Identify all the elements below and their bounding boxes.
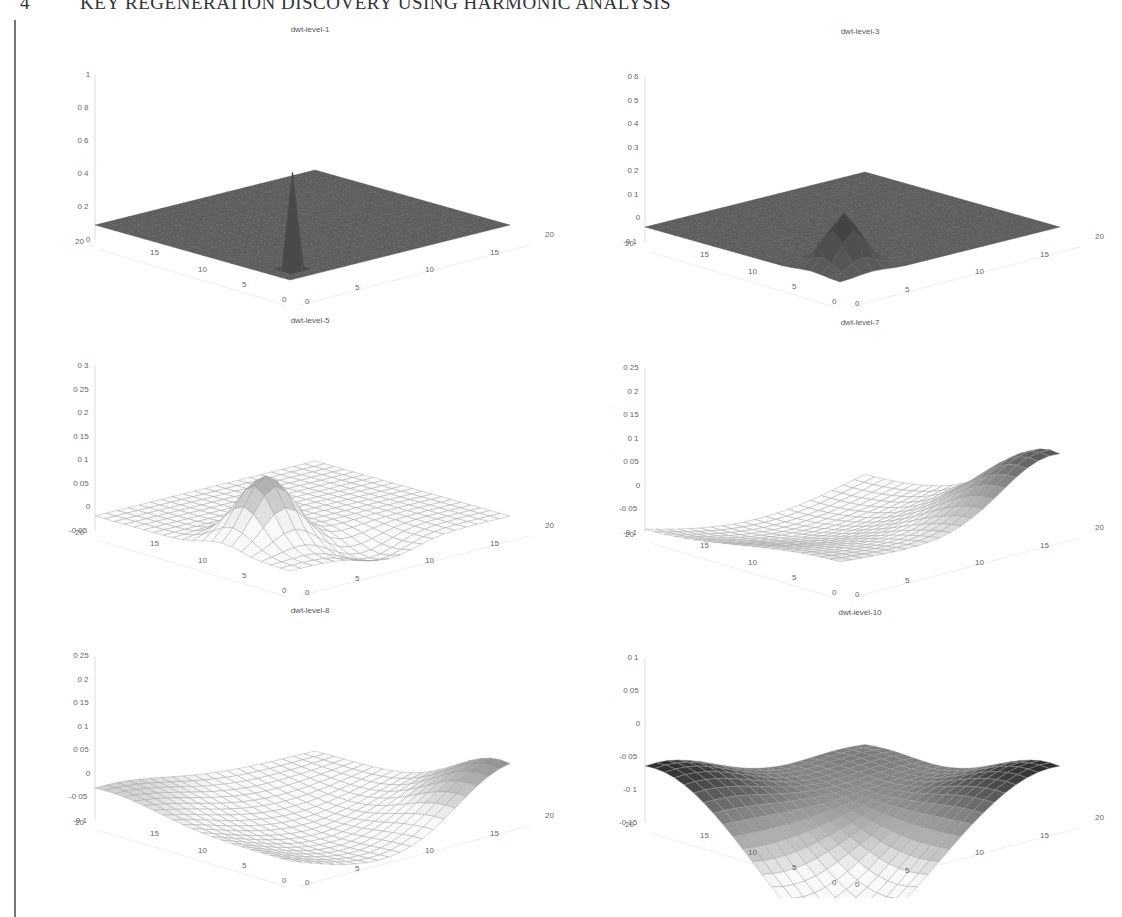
- y-tick-label: 5: [792, 282, 796, 291]
- x-tick-label: 5: [905, 285, 909, 294]
- y-tick-label: 15: [700, 250, 709, 259]
- z-tick-label: 0 15: [73, 698, 89, 707]
- x-tick-label: 15: [1040, 250, 1049, 259]
- z-tick-label: 0 2: [627, 166, 638, 175]
- z-tick-label: 0 3: [627, 143, 638, 152]
- y-tick-label: 20: [625, 239, 634, 248]
- surface-mesh: [20, 316, 560, 606]
- z-tick-label: 0 2: [77, 202, 88, 211]
- x-tick-label: 10: [425, 265, 434, 274]
- y-tick-label: 20: [75, 818, 84, 827]
- surface-mesh: [570, 608, 1110, 898]
- x-tick-label: 5: [355, 574, 359, 583]
- z-tick-label: 0: [86, 502, 90, 511]
- z-tick-label: 0 15: [73, 432, 89, 441]
- x-tick-label: 20: [1095, 523, 1104, 532]
- x-tick-label: 0: [305, 297, 309, 306]
- x-tick-label: 5: [355, 283, 359, 292]
- x-tick-label: 15: [490, 248, 499, 257]
- z-tick-label: 0 25: [73, 385, 89, 394]
- x-tick-label: 10: [425, 846, 434, 855]
- x-tick-label: 0: [305, 588, 309, 597]
- section-number: 4: [20, 0, 80, 14]
- surface-plot-dwt-level-5: dwt-level-5-0 0500 050 10 150 20 250 305…: [20, 316, 560, 606]
- surface-plot-dwt-level-10: dwt-level-10-0 15-0 1-0 0500 050 1051015…: [570, 608, 1110, 898]
- y-tick-label: 10: [198, 556, 207, 565]
- z-tick-label: -0 05: [619, 752, 637, 761]
- z-tick-label: 0 8: [77, 103, 88, 112]
- y-tick-label: 15: [700, 541, 709, 550]
- z-tick-label: 0 2: [77, 675, 88, 684]
- z-tick-label: 0: [636, 213, 640, 222]
- y-tick-label: 10: [198, 265, 207, 274]
- z-tick-label: 0 15: [623, 410, 639, 419]
- x-tick-label: 10: [975, 558, 984, 567]
- surface-plot-dwt-level-8: dwt-level-8-0 1-0 0500 050 10 150 20 250…: [20, 606, 560, 896]
- y-tick-label: 20: [625, 820, 634, 829]
- x-tick-label: 0: [855, 299, 859, 308]
- x-tick-label: 15: [1040, 831, 1049, 840]
- surface-mesh: [20, 606, 560, 896]
- z-tick-label: 0 2: [77, 408, 88, 417]
- y-tick-label: 15: [150, 248, 159, 257]
- surface-mesh: [570, 318, 1110, 608]
- y-tick-label: 0: [832, 588, 836, 597]
- y-tick-label: 5: [242, 571, 246, 580]
- section-header: 4KEY REGENERATION DISCOVERY USING HARMON…: [20, 0, 671, 14]
- y-tick-label: 10: [748, 848, 757, 857]
- x-tick-label: 5: [905, 866, 909, 875]
- x-tick-label: 5: [355, 864, 359, 873]
- y-tick-label: 20: [75, 237, 84, 246]
- y-tick-label: 0: [282, 586, 286, 595]
- z-tick-label: 0 25: [623, 363, 639, 372]
- x-tick-label: 15: [490, 829, 499, 838]
- x-tick-label: 10: [975, 848, 984, 857]
- z-tick-label: 0 6: [77, 136, 88, 145]
- y-tick-label: 5: [242, 280, 246, 289]
- z-tick-label: 0 05: [73, 745, 89, 754]
- z-tick-label: -0 05: [619, 504, 637, 513]
- z-tick-label: 0 1: [627, 190, 638, 199]
- z-tick-label: 0 6: [627, 72, 638, 81]
- y-tick-label: 0: [832, 878, 836, 887]
- surface-plot-dwt-level-3: dwt-level-3-0 100 10 20 30 40 50 6051015…: [570, 27, 1110, 317]
- y-tick-label: 15: [150, 539, 159, 548]
- x-tick-label: 0: [855, 590, 859, 599]
- z-tick-label: 0 3: [77, 361, 88, 370]
- z-tick-label: 0 05: [623, 457, 639, 466]
- y-tick-label: 15: [150, 829, 159, 838]
- z-tick-label: 0 05: [623, 686, 639, 695]
- x-tick-label: 10: [425, 556, 434, 565]
- z-tick-label: 0 1: [77, 722, 88, 731]
- y-tick-label: 20: [625, 530, 634, 539]
- z-tick-label: 0: [636, 481, 640, 490]
- y-tick-label: 0: [282, 876, 286, 885]
- z-tick-label: 0 4: [627, 119, 638, 128]
- left-margin-rule: [14, 20, 16, 917]
- z-tick-label: 0 05: [73, 479, 89, 488]
- z-tick-label: 0: [86, 235, 90, 244]
- y-tick-label: 0: [832, 297, 836, 306]
- x-tick-label: 20: [545, 230, 554, 239]
- x-tick-label: 20: [545, 811, 554, 820]
- z-tick-label: 0 5: [627, 96, 638, 105]
- x-tick-label: 20: [545, 521, 554, 530]
- z-tick-label: 0 4: [77, 169, 88, 178]
- z-tick-label: 0 25: [73, 651, 89, 660]
- x-tick-label: 0: [855, 880, 859, 889]
- z-tick-label: 0 1: [77, 455, 88, 464]
- z-tick-label: -0 05: [69, 792, 87, 801]
- y-tick-label: 20: [75, 528, 84, 537]
- y-tick-label: 10: [748, 558, 757, 567]
- x-tick-label: 15: [490, 539, 499, 548]
- y-tick-label: 0: [282, 295, 286, 304]
- surface-mesh: [570, 27, 1110, 317]
- x-tick-label: 10: [975, 267, 984, 276]
- z-tick-label: 0 2: [627, 387, 638, 396]
- z-tick-label: 1: [86, 70, 90, 79]
- surface-mesh: [20, 25, 560, 315]
- z-tick-label: 0 1: [627, 434, 638, 443]
- surface-plot-dwt-level-7: dwt-level-7-0 1-0 0500 050 10 150 20 250…: [570, 318, 1110, 608]
- x-tick-label: 20: [1095, 232, 1104, 241]
- x-tick-label: 15: [1040, 541, 1049, 550]
